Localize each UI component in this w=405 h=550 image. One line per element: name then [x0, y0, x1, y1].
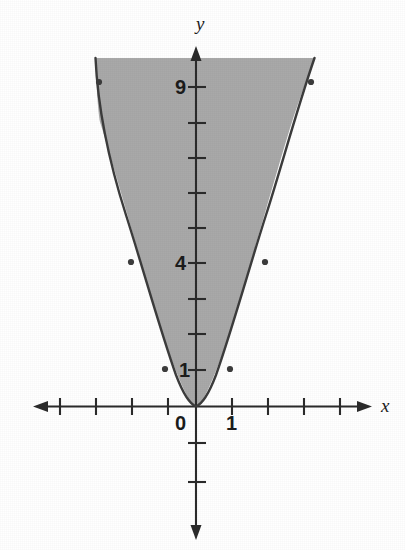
parabola-plot-svg	[0, 0, 405, 550]
data-point	[128, 259, 134, 265]
x-axis-label: x	[381, 396, 389, 415]
graph-figure: y x 9 4 1 0 1	[0, 0, 405, 550]
data-point	[227, 366, 233, 372]
data-point	[262, 259, 268, 265]
y-axis-down-arrow-icon	[191, 525, 202, 540]
x-tick-label-1: 1	[226, 413, 237, 433]
data-point	[162, 366, 168, 372]
data-point	[308, 79, 314, 85]
y-tick-label-1: 1	[179, 360, 190, 380]
origin-label: 0	[175, 413, 186, 433]
y-axis-label: y	[196, 14, 204, 33]
y-tick-label-9: 9	[175, 77, 186, 97]
y-tick-label-4: 4	[175, 253, 186, 273]
shaded-region-above-parabola	[96, 58, 315, 407]
x-axis-left-arrow-icon	[33, 401, 48, 412]
y-axis-up-arrow-icon	[191, 46, 202, 61]
shaded-region-group	[96, 58, 315, 407]
data-point	[96, 79, 102, 85]
x-axis-right-arrow-icon	[357, 401, 372, 412]
